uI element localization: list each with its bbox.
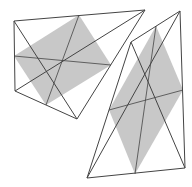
varignon-diagram <box>0 0 192 187</box>
diagram-canvas <box>0 0 192 187</box>
